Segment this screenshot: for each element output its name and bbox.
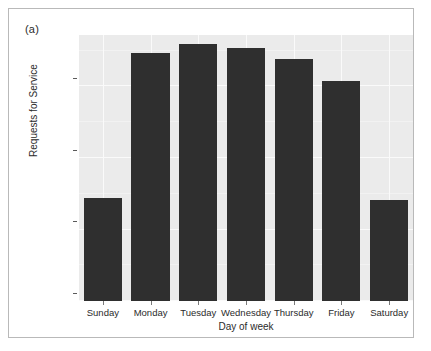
bar-thursday [275, 59, 313, 301]
figure-frame: (a) 050000100000150000 Requests for Serv… [8, 8, 414, 338]
bar-friday [322, 81, 360, 301]
x-axis-title: Day of week [79, 321, 413, 332]
y-axis-title: Requests for Service [28, 21, 39, 201]
bar-monday [131, 53, 169, 301]
x-tick-mark [198, 301, 199, 305]
x-tick-label-wednesday: Wednesday [221, 307, 271, 318]
y-tick-mark [73, 150, 77, 151]
x-tick-mark [294, 301, 295, 305]
y-axis-ticks: 050000100000150000 [9, 9, 71, 351]
x-tick-label-tuesday: Tuesday [180, 307, 216, 318]
x-tick-label-saturday: Saturday [370, 307, 408, 318]
x-tick-mark [341, 301, 342, 305]
bar-wednesday [227, 48, 265, 301]
x-tick-label-thursday: Thursday [274, 307, 314, 318]
x-tick-label-monday: Monday [134, 307, 168, 318]
x-tick-mark [389, 301, 390, 305]
y-tick-mark [73, 293, 77, 294]
bar-saturday [370, 200, 408, 301]
bars-layer [79, 35, 413, 301]
y-tick-mark [73, 221, 77, 222]
x-tick-mark [151, 301, 152, 305]
x-tick-label-sunday: Sunday [87, 307, 119, 318]
bar-tuesday [179, 44, 217, 301]
y-tick-mark [73, 78, 77, 79]
bar-sunday [84, 198, 122, 301]
x-tick-mark [103, 301, 104, 305]
x-tick-label-friday: Friday [328, 307, 354, 318]
plot-area [79, 35, 413, 301]
x-tick-mark [246, 301, 247, 305]
